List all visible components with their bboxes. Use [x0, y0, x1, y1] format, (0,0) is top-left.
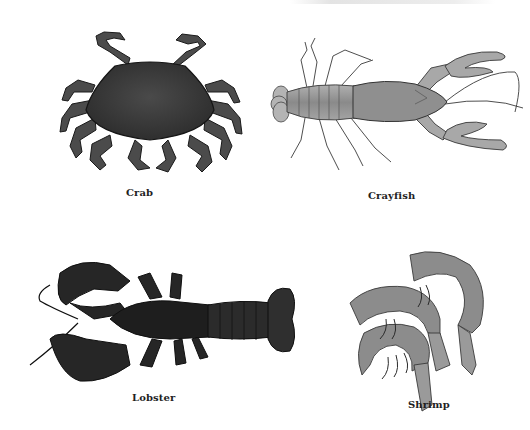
lobster-label: Lobster — [132, 392, 175, 403]
lobster-panel: Lobster — [0, 215, 330, 430]
crayfish-illustration — [265, 0, 530, 215]
crayfish-label: Crayfish — [368, 190, 415, 201]
crab-illustration — [0, 0, 265, 215]
crayfish-panel: Crayfish — [265, 0, 530, 215]
crab-panel: Crab — [0, 0, 265, 215]
shrimp-panel: Shrimp — [330, 215, 530, 430]
shrimp-label: Shrimp — [408, 399, 450, 410]
crab-label: Crab — [126, 187, 153, 198]
shrimp-illustration — [330, 215, 530, 430]
